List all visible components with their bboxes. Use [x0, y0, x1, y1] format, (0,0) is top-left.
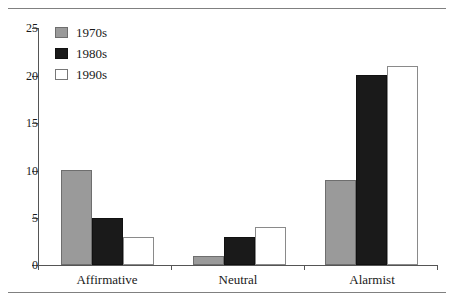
bar-alarmist-1980s: [356, 75, 387, 265]
y-tick-label: 25: [12, 22, 38, 34]
y-tick-5: 5: [0, 218, 38, 219]
x-tick-start: [38, 265, 39, 270]
black-swatch-icon: [55, 48, 68, 59]
bottom-divider-rule: [8, 292, 446, 293]
bar-affirmative-1990s: [123, 237, 154, 265]
y-tick-label: 20: [12, 70, 38, 82]
y-tick-20: 20: [0, 76, 38, 77]
bar-affirmative-1970s: [61, 170, 92, 265]
white-swatch-icon: [55, 69, 68, 80]
bar-alarmist-1970s: [325, 180, 356, 265]
y-tick-15: 15: [0, 123, 38, 124]
x-axis-line: [38, 265, 438, 266]
x-category-label-affirmative: Affirmative: [42, 272, 172, 287]
x-tick-end: [437, 265, 438, 270]
y-tick-0: 0: [0, 265, 38, 266]
y-tick-10: 10: [0, 171, 38, 172]
y-tick-label: 5: [12, 212, 38, 224]
legend-item-1970s: 1970s: [55, 22, 107, 43]
gray-swatch-icon: [55, 27, 68, 38]
y-tick-25: 25: [0, 28, 38, 29]
bar-alarmist-1990s: [387, 66, 418, 265]
legend-item-1990s: 1990s: [55, 64, 107, 85]
legend-label: 1990s: [76, 68, 107, 82]
legend-label: 1970s: [76, 26, 107, 40]
chart-legend: 1970s 1980s 1990s: [55, 22, 107, 85]
legend-label: 1980s: [76, 47, 107, 61]
x-tick-sep-2: [304, 265, 305, 270]
bar-neutral-1980s: [224, 237, 255, 265]
bar-neutral-1970s: [193, 256, 224, 266]
y-axis-line: [38, 28, 39, 266]
y-tick-label: 15: [12, 117, 38, 129]
y-tick-label: 10: [12, 165, 38, 177]
bar-affirmative-1980s: [92, 218, 123, 265]
y-tick-label: 0: [12, 259, 38, 271]
x-category-label-alarmist: Alarmist: [308, 272, 436, 287]
legend-item-1980s: 1980s: [55, 43, 107, 64]
x-tick-sep-1: [171, 265, 172, 270]
bar-chart-plot: 25 20 15 10 5 0: [0, 0, 454, 299]
bar-neutral-1990s: [255, 227, 286, 265]
x-category-label-neutral: Neutral: [175, 272, 301, 287]
figure: 25 20 15 10 5 0: [0, 0, 454, 299]
